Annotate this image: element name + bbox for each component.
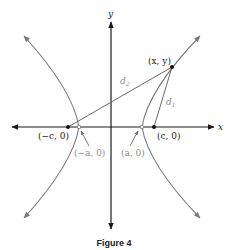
label-left-focus: (−c, 0) [38, 131, 69, 141]
pointer-right-vertex [130, 131, 138, 146]
point-left-focus [66, 125, 70, 129]
figure-caption: Figure 4 [96, 238, 131, 248]
hyperbola-left-branch-upper [24, 36, 79, 127]
pointer-left-vertex [81, 131, 89, 146]
hyperbola-right-branch-upper [142, 36, 200, 127]
point-right-vertex [140, 125, 144, 129]
label-d1: d1 [166, 97, 176, 108]
point-right-focus [152, 125, 156, 129]
point-left-vertex [77, 125, 81, 129]
y-axis-label: y [107, 9, 114, 19]
x-axis-label: x [218, 122, 223, 132]
label-right-focus: (c, 0) [157, 131, 181, 141]
label-d2: d2 [120, 76, 130, 87]
label-left-vertex: (−a, 0) [74, 148, 105, 158]
label-right-vertex: (a, 0) [121, 148, 145, 158]
label-general-point: (x, y) [148, 56, 171, 66]
hyperbola-diagram: y x (x, y) d2 d1 (−c, 0) (c, 0) (−a, 0) … [0, 0, 229, 250]
